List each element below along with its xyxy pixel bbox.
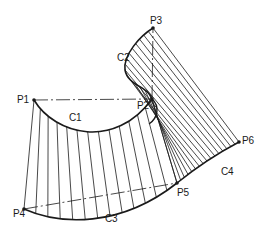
ruling-line (88, 132, 98, 218)
ruling-line (119, 126, 134, 208)
point-p6 (237, 140, 241, 144)
ruling-line (129, 121, 146, 203)
ruling-line (137, 115, 156, 197)
label-c2: C2 (117, 53, 129, 63)
label-c1: C1 (69, 113, 81, 123)
label-p4: P4 (13, 209, 25, 219)
point-p2 (150, 97, 154, 101)
label-p2: P2 (137, 101, 149, 111)
label-p6: P6 (242, 136, 254, 146)
ruling-line (57, 122, 60, 218)
curve-c1 (34, 99, 152, 132)
point-p1 (32, 98, 36, 102)
ruled-surface-diagram (0, 0, 262, 229)
point-p5 (175, 181, 179, 185)
ruling-line (109, 130, 122, 213)
label-p3: P3 (150, 16, 162, 26)
ruling-line (127, 75, 199, 166)
rulings-c1-c3 (24, 99, 177, 220)
chord-p1-p2 (34, 99, 152, 100)
boundary-ruling (152, 99, 177, 183)
chord-p2-p3 (152, 28, 153, 99)
ruling-line (77, 130, 85, 219)
ruling-line (98, 132, 110, 216)
point-p3 (151, 26, 155, 30)
ruling-line (67, 127, 73, 220)
ruling-line (36, 109, 41, 214)
label-c3: C3 (105, 214, 117, 224)
label-p5: P5 (177, 188, 189, 198)
label-p1: P1 (17, 95, 29, 105)
ruling-line (144, 35, 231, 146)
label-c4: C4 (221, 167, 233, 177)
curve-c2 (125, 28, 153, 99)
ruling-line (145, 107, 167, 190)
boundary-ruling (24, 100, 34, 209)
control-points (22, 26, 241, 211)
